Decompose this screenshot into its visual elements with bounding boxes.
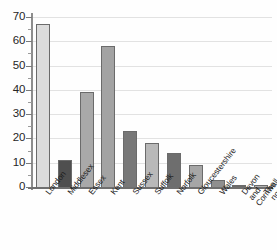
- y-axis-minor-tick: [28, 78, 32, 79]
- bar: [123, 131, 137, 187]
- y-axis-tick: [26, 66, 32, 67]
- gridline: [32, 114, 272, 115]
- y-axis-label: 20: [0, 132, 25, 142]
- y-axis-label: 60: [0, 35, 25, 45]
- y-axis-minor-tick: [28, 102, 32, 103]
- bar-chart: 010203040506070 LondonMiddlesexEssexKent…: [0, 0, 277, 250]
- y-axis-minor-tick: [28, 175, 32, 176]
- gridline: [32, 66, 272, 67]
- gridline: [32, 17, 272, 18]
- y-axis-label: 0: [0, 181, 25, 191]
- y-axis-label: 40: [0, 84, 25, 94]
- y-axis-label: 50: [0, 60, 25, 70]
- y-axis-minor-tick: [28, 53, 32, 54]
- y-axis-label: 10: [0, 157, 25, 167]
- y-axis-label: 70: [0, 11, 25, 21]
- y-axis-minor-tick: [28, 126, 32, 127]
- y-axis-minor-tick: [28, 29, 32, 30]
- y-axis-tick: [26, 114, 32, 115]
- gridline: [32, 41, 272, 42]
- y-axis-label: 30: [0, 108, 25, 118]
- y-axis-minor-tick: [28, 151, 32, 152]
- x-axis-line: [28, 187, 273, 189]
- bar: [101, 46, 115, 187]
- y-axis-tick: [26, 187, 32, 188]
- gridline: [32, 138, 272, 139]
- gridline: [32, 90, 272, 91]
- y-axis-tick: [26, 163, 32, 164]
- plot-area: [32, 17, 272, 187]
- y-axis-tick: [26, 138, 32, 139]
- bar: [36, 24, 50, 187]
- y-axis-tick: [26, 17, 32, 18]
- y-axis-tick: [26, 90, 32, 91]
- y-axis-tick: [26, 41, 32, 42]
